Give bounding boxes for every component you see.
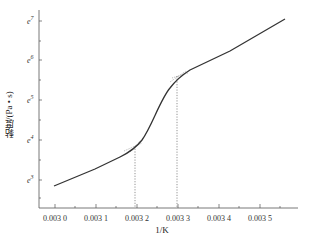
svg-text:0.003 2: 0.003 2	[125, 214, 149, 223]
tangent-marks	[124, 71, 188, 152]
y-tick-labels: e7 e6 e5 e4 e3	[27, 15, 35, 185]
viscosity-curve	[54, 19, 285, 186]
y-axis-title: 黏度/(Pa • s)	[2, 70, 16, 160]
svg-text:0.003 0: 0.003 0	[43, 214, 67, 223]
svg-text:0.003 5: 0.003 5	[248, 214, 272, 223]
svg-text:e7: e7	[27, 15, 35, 26]
svg-text:0.003 1: 0.003 1	[84, 214, 108, 223]
x-tick-labels: 0.003 0 0.003 1 0.003 2 0.003 3 0.003 4 …	[43, 214, 272, 223]
x-ticks	[55, 204, 280, 208]
svg-text:0.003 3: 0.003 3	[166, 214, 190, 223]
x-axis-title: 1/K	[155, 225, 169, 235]
svg-text:0.003 4: 0.003 4	[207, 214, 231, 223]
svg-text:e3: e3	[27, 174, 34, 185]
svg-text:e6: e6	[27, 54, 34, 65]
svg-text:e4: e4	[27, 134, 34, 145]
viscosity-chart: e7 e6 e5 e4 e3 0.003 0 0.003 1 0.003 2 0…	[0, 0, 309, 242]
svg-text:e5: e5	[27, 94, 34, 105]
y-ticks	[39, 21, 42, 198]
